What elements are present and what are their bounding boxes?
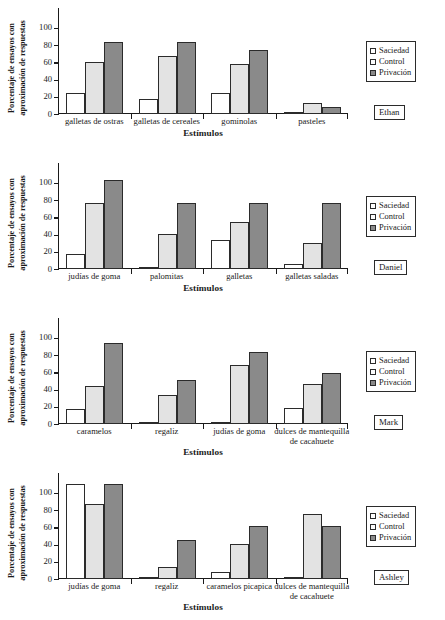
bar-saciedad-3 — [284, 408, 303, 424]
bars-container — [58, 479, 348, 579]
bar-control-2 — [230, 64, 249, 114]
y-axis-title-line-2: aproximación de respuestas — [17, 20, 28, 115]
bar-privacin-3 — [322, 373, 341, 424]
subject-name-box: Mark — [374, 415, 403, 430]
legend-swatch-icon — [370, 358, 376, 364]
bar-control-0 — [85, 504, 104, 579]
legend-swatch-icon — [370, 369, 376, 375]
y-axis-title: Porcentaje de ensayos conaproximación de… — [0, 465, 34, 600]
y-axis-tick-label: 0 — [48, 264, 52, 275]
bar-privacin-0 — [104, 180, 123, 269]
y-axis-tick-label: 80 — [43, 505, 52, 516]
legend-item-saciedad: Saciedad — [370, 355, 411, 366]
legend-item-saciedad: Saciedad — [370, 200, 411, 211]
y-axis-tick-label: 100 — [39, 487, 52, 498]
y-axis-tick-label: 100 — [39, 332, 52, 343]
plot-area: 020406080100 — [58, 14, 348, 114]
legend-item-label: Saciedad — [379, 46, 409, 55]
x-axis-title: Estímulos — [58, 447, 348, 457]
bar-privacin-2 — [249, 203, 268, 269]
y-axis-tick-label: 20 — [43, 401, 52, 412]
x-axis-label-3: dulces de mantequillade cacahuete — [274, 581, 349, 601]
x-axis-label-2: judías de goma — [213, 426, 265, 436]
x-axis-label-1: palomitas — [150, 271, 183, 281]
bar-privacin-2 — [249, 352, 268, 424]
legend-item-privacin: Privación — [370, 222, 411, 233]
bars-container — [58, 169, 348, 269]
legend-item-control: Control — [370, 56, 411, 67]
legend-item-saciedad: Saciedad — [370, 510, 411, 521]
x-axis-label-0: judías de goma — [68, 271, 120, 281]
bar-control-3 — [303, 243, 322, 269]
bar-privacin-0 — [104, 42, 123, 114]
y-axis-tick-label: 100 — [39, 177, 52, 188]
y-axis-tick-label: 80 — [43, 350, 52, 361]
bar-privacin-3 — [322, 203, 341, 269]
legend-item-privacin: Privación — [370, 377, 411, 388]
legend-swatch-icon — [370, 203, 376, 209]
y-axis-tick-label: 60 — [43, 367, 52, 378]
bar-control-2 — [230, 544, 249, 579]
bars-container — [58, 324, 348, 424]
bars-container — [58, 14, 348, 114]
bar-saciedad-0 — [66, 93, 85, 114]
bar-control-1 — [158, 56, 177, 114]
legend-item-label: Control — [379, 522, 405, 531]
bar-saciedad-1 — [139, 577, 158, 579]
bar-privacin-1 — [177, 42, 196, 114]
y-axis-tick-label: 0 — [48, 109, 52, 120]
bar-privacin-0 — [104, 484, 123, 579]
bar-privacin-3 — [322, 107, 341, 114]
legend-item-privacin: Privación — [370, 67, 411, 78]
y-axis-tick-label: 40 — [43, 229, 52, 240]
bar-privacin-1 — [177, 380, 196, 424]
y-axis-title-line-2: aproximación de respuestas — [17, 175, 28, 270]
legend-item-privacin: Privación — [370, 532, 411, 543]
x-axis-label-1: regaliz — [155, 426, 178, 436]
bar-control-1 — [158, 567, 177, 579]
plot-area: 020406080100 — [58, 169, 348, 269]
bar-saciedad-2 — [211, 240, 230, 269]
x-axis-label-0: judías de goma — [68, 581, 120, 591]
legend: SaciedadControlPrivación — [366, 506, 416, 547]
y-axis-title: Porcentaje de ensayos conaproximación de… — [0, 155, 34, 290]
y-axis-title-line-1: Porcentaje de ensayos con — [7, 485, 18, 580]
legend-item-label: Control — [379, 212, 405, 221]
bar-privacin-2 — [249, 50, 268, 114]
y-axis-tick-label: 0 — [48, 419, 52, 430]
legend-swatch-icon — [370, 59, 376, 65]
bar-saciedad-3 — [284, 264, 303, 269]
legend-item-label: Privación — [379, 223, 411, 232]
subject-name-box: Ashley — [374, 570, 409, 585]
bar-control-1 — [158, 395, 177, 424]
legend-swatch-icon — [370, 48, 376, 54]
y-axis-tick-label: 40 — [43, 539, 52, 550]
x-axis-label-1: regaliz — [155, 581, 178, 591]
legend-item-label: Privación — [379, 533, 411, 542]
legend-item-label: Saciedad — [379, 356, 409, 365]
panel-daniel: Porcentaje de ensayos conaproximación de… — [0, 155, 445, 310]
legend: SaciedadControlPrivación — [366, 196, 416, 237]
plot-area: 020406080100 — [58, 479, 348, 579]
legend: SaciedadControlPrivación — [366, 41, 416, 82]
legend-swatch-icon — [370, 70, 376, 76]
x-axis-label-3: pasteles — [298, 116, 325, 126]
legend: SaciedadControlPrivación — [366, 351, 416, 392]
bar-privacin-1 — [177, 203, 196, 269]
legend-swatch-icon — [370, 225, 376, 231]
plot-area: 020406080100 — [58, 324, 348, 424]
legend-item-label: Privación — [379, 378, 411, 387]
bar-control-2 — [230, 365, 249, 424]
y-axis-title: Porcentaje de ensayos conaproximación de… — [0, 0, 34, 135]
y-axis-tick-label: 100 — [39, 22, 52, 33]
y-axis-title-line-1: Porcentaje de ensayos con — [7, 330, 18, 425]
subject-name-box: Daniel — [374, 260, 407, 275]
y-axis-tick-label: 0 — [48, 574, 52, 585]
bar-saciedad-2 — [211, 93, 230, 114]
bar-control-0 — [85, 386, 104, 424]
x-axis-label-2: caramelos picapica — [206, 581, 272, 591]
x-axis-label-2: gominolas — [221, 116, 257, 126]
legend-swatch-icon — [370, 380, 376, 386]
x-axis-label-3: galletas saladas — [285, 271, 338, 281]
bar-privacin-1 — [177, 540, 196, 579]
